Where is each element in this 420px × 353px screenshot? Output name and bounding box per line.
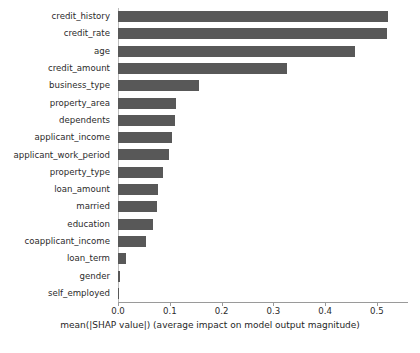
bar-credit_amount [118,63,287,74]
bar-row [118,94,408,111]
y-tick-label-property_area: property_area [50,98,110,109]
plot-area [118,8,408,302]
bar-row [118,60,408,77]
bar-row [118,146,408,163]
bar-row [118,267,408,284]
y-tick-label-credit_rate: credit_rate [64,28,110,39]
bar-dependents [118,115,175,126]
bar-applicant_income [118,132,172,143]
bar-property_type [118,167,163,178]
y-tick-label-applicant_income: applicant_income [34,132,110,143]
bar-loan_amount [118,184,158,195]
bar-row [118,112,408,129]
y-tick-label-business_type: business_type [49,80,110,91]
x-axis-title: mean(|SHAP value|) (average impact on mo… [0,320,420,330]
bar-gender [118,271,120,282]
x-tick-label: 0.0 [111,306,125,316]
bar-self_employed [118,288,119,299]
bar-row [118,77,408,94]
y-tick-label-loan_term: loan_term [67,253,110,264]
y-tick-label-education: education [67,219,110,230]
bar-row [118,233,408,250]
bar-business_type [118,80,199,91]
x-tick-label: 0.5 [370,306,384,316]
bar-credit_rate [118,28,387,39]
bar-education [118,219,153,230]
bar-row [118,43,408,60]
bar-applicant_work_period [118,149,169,160]
bar-row [118,285,408,302]
bar-row [118,25,408,42]
bar-credit_history [118,11,388,22]
bar-married [118,201,157,212]
bar-row [118,129,408,146]
bar-row [118,164,408,181]
bar-loan_term [118,253,126,264]
shap-feature-importance-figure: credit_historycredit_rateagecredit_amoun… [0,0,420,353]
y-tick-label-coapplicant_income: coapplicant_income [24,236,110,247]
y-tick-label-dependents: dependents [59,115,110,126]
bar-row [118,250,408,267]
y-tick-label-self_employed: self_employed [48,288,110,299]
bar-property_area [118,98,176,109]
y-tick-label-credit_history: credit_history [52,11,110,22]
x-tick-label: 0.3 [267,306,281,316]
y-tick-label-property_type: property_type [50,167,110,178]
x-tick-label: 0.1 [163,306,177,316]
bar-row [118,8,408,25]
x-tick-label: 0.4 [318,306,332,316]
y-tick-label-applicant_work_period: applicant_work_period [13,150,110,161]
bar-row [118,181,408,198]
bar-coapplicant_income [118,236,146,247]
bar-row [118,198,408,215]
bar-age [118,46,355,57]
y-tick-label-married: married [76,201,110,212]
y-axis-tick-labels: credit_historycredit_rateagecredit_amoun… [0,8,114,302]
bar-row [118,216,408,233]
y-tick-label-age: age [94,46,110,57]
x-tick-label: 0.2 [215,306,229,316]
y-tick-label-credit_amount: credit_amount [48,63,110,74]
x-axis-spine [118,302,408,303]
y-tick-label-gender: gender [80,271,110,282]
y-tick-label-loan_amount: loan_amount [54,184,110,195]
